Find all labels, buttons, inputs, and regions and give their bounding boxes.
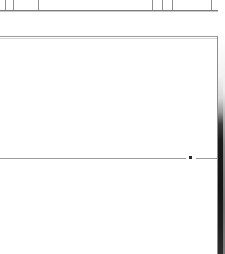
column-separator <box>152 0 153 10</box>
page-edge-shadow-inner <box>223 36 225 254</box>
column-separator <box>162 0 163 10</box>
content-panel <box>0 36 218 254</box>
column-separator <box>172 0 173 10</box>
horizontal-rule-right <box>196 158 217 159</box>
horizontal-rule-left <box>0 158 186 159</box>
column-separator <box>38 0 39 10</box>
column-separator <box>13 0 14 10</box>
inline-marker-dot <box>189 156 192 159</box>
content-panel-top-shadow <box>0 38 217 39</box>
page-edge-shadow-top-gap <box>218 0 225 36</box>
column-separator <box>5 0 6 10</box>
column-separator <box>211 0 212 10</box>
screenshot-root <box>0 0 225 254</box>
header-bottom-rule-shadow <box>0 11 225 12</box>
